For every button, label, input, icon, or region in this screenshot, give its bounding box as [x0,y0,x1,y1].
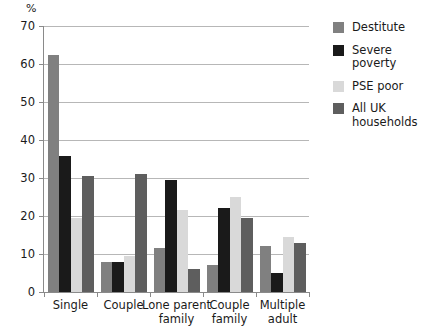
x-tick-mark [309,292,310,297]
y-axis-unit-label: % [26,2,37,15]
legend-label: All UK households [352,102,418,129]
bar-group [44,26,97,292]
y-tick-label: 0 [28,285,35,299]
bar [294,243,306,292]
y-tick-label: 20 [20,209,35,223]
y-tick-label: 50 [20,95,35,109]
y-tick-label: 40 [20,133,35,147]
x-tick-mark [44,292,45,297]
y-tick-label: 30 [20,171,35,185]
x-axis-line [44,292,309,293]
bar [271,273,283,292]
bar-chart: % 010203040506070 SingleCoupleLone paren… [0,0,421,333]
bar [188,269,200,292]
bar [71,218,83,292]
x-tick-mark [97,292,98,297]
x-category-label: Multiple adult [248,299,317,326]
bar [101,262,113,292]
bar [230,197,242,292]
legend-swatch-icon [333,81,344,92]
legend-swatch-icon [333,103,344,114]
bar-group [97,26,150,292]
bar [177,210,189,292]
bar [124,256,136,292]
bar [82,176,94,292]
plot-area [44,26,309,292]
bar [218,208,230,292]
legend-label: PSE poor [352,80,403,94]
legend-swatch-icon [333,22,344,33]
bars-layer [44,26,309,292]
x-tick-mark [256,292,257,297]
y-tick-label: 60 [20,57,35,71]
chart-legend: DestituteSevere povertyPSE poorAll UK ho… [333,21,421,138]
bar [59,156,71,292]
legend-item[interactable]: Destitute [333,21,421,35]
bar [207,265,219,292]
bar [165,180,177,292]
legend-item[interactable]: All UK households [333,102,421,129]
legend-label: Severe poverty [352,44,396,71]
bar [112,262,124,292]
x-tick-mark [150,292,151,297]
bar-group [203,26,256,292]
x-tick-mark [203,292,204,297]
legend-item[interactable]: Severe poverty [333,44,421,71]
bar [154,248,166,292]
y-tick-label: 70 [20,19,35,33]
bar-group [150,26,203,292]
bar [135,174,147,292]
y-tick-label: 10 [20,247,35,261]
bar [260,246,272,292]
legend-swatch-icon [333,45,344,56]
legend-item[interactable]: PSE poor [333,80,421,94]
bar-group [256,26,309,292]
bar [241,218,253,292]
bar [48,55,60,293]
bar [283,237,295,292]
legend-label: Destitute [352,21,405,35]
